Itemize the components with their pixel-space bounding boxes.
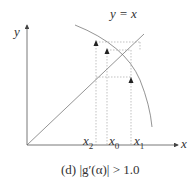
x0-label: x0	[109, 134, 119, 151]
caption: (d) |g′(α)| > 1.0	[61, 163, 140, 176]
diagonal-line	[27, 34, 144, 145]
x-axis-label: x	[181, 137, 187, 150]
dashed-guides	[96, 42, 140, 145]
line-label: y = x	[110, 7, 137, 20]
curve-g	[75, 25, 152, 127]
y-axis-label: y	[14, 25, 20, 38]
plot	[0, 0, 196, 186]
diagram: y x y = x x2 x0 x1 (d) |g′(α)| > 1.0	[0, 0, 196, 186]
x2-label: x2	[83, 134, 93, 151]
x1-label: x1	[134, 134, 144, 151]
